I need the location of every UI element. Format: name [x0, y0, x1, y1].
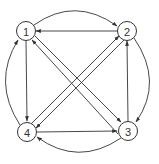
edge-1-to-3 — [35, 36, 121, 122]
edge-arc-4-to-1 — [5, 40, 20, 125]
node-2: 2 — [118, 22, 137, 41]
edge-1-to-4 — [26, 41, 27, 121]
edge-arc-1-to-2 — [34, 11, 117, 26]
node-2-label: 2 — [124, 26, 130, 38]
edge-4-to-2 — [31, 36, 119, 124]
node-1-label: 1 — [23, 26, 29, 38]
graph-diagram: 1 2 3 4 — [0, 0, 159, 164]
node-3: 3 — [119, 122, 138, 141]
edge-4-to-3 — [37, 131, 117, 132]
edge-arc-3-to-4 — [37, 137, 121, 152]
edge-3-to-1 — [32, 40, 118, 134]
edge-arc-2-to-3 — [134, 38, 150, 122]
node-4: 4 — [18, 123, 37, 142]
node-1: 1 — [17, 22, 36, 41]
node-4-label: 4 — [24, 127, 30, 139]
edge-2-to-4 — [36, 40, 124, 128]
edge-3-to-2 — [127, 41, 128, 121]
node-3-label: 3 — [125, 126, 131, 138]
